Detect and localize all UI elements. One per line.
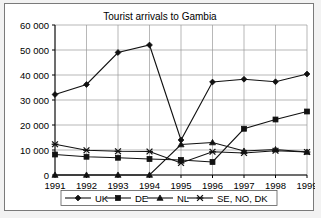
axes [52,25,307,178]
chart-frame: Tourist arrivals to Gambia 010 00020 000… [0,0,321,218]
y-axis-tick-label: 0 [44,170,49,181]
x-axis-tick-label: 1994 [139,180,160,191]
chart-card: Tourist arrivals to Gambia 010 00020 000… [4,3,314,211]
data-point-marker [305,109,310,114]
legend-label: SE, NO, DK [217,193,268,204]
gridlines [55,25,307,175]
x-axis-tick-label: 1992 [76,180,97,191]
chart-title: Tourist arrivals to Gambia [103,11,217,22]
x-axis-tick-label: 1999 [296,180,315,191]
data-point-marker [116,155,121,160]
data-point-marker [242,126,247,131]
data-point-marker [241,76,247,82]
x-axis-tick-label: 1998 [265,180,286,191]
y-axis-tick-label: 20 000 [20,120,49,131]
chart-title-text: Tourist arrivals to Gambia [103,11,217,22]
data-point-marker [210,79,216,85]
data-point-marker [52,92,58,98]
x-axis-tick-label: 1993 [107,180,128,191]
data-point-marker [273,117,278,122]
x-axis-tick-labels: 199119921993199419951996199719981999 [44,180,315,191]
data-point-marker [147,42,153,48]
data-point-marker [53,152,58,157]
data-point-marker [147,157,152,162]
x-axis-tick-label: 1996 [202,180,223,191]
x-axis-tick-label: 1995 [170,180,191,191]
x-axis-tick-label: 1997 [233,180,254,191]
y-axis-tick-label: 50 000 [20,45,49,56]
data-point-marker [210,160,215,165]
y-axis-tick-label: 30 000 [20,95,49,106]
legend-label: DE [135,193,148,204]
data-point-marker [84,154,89,159]
y-axis-tick-label: 10 000 [20,145,49,156]
y-axis-tick-label: 40 000 [20,70,49,81]
data-point-marker [273,79,279,85]
legend-marker [116,196,121,201]
x-axis-tick-label: 1991 [44,180,65,191]
y-axis-tick-label: 60 000 [20,20,49,31]
data-point-marker [304,71,310,77]
chart-legend: UKDENLSE, NO, DK [61,191,277,206]
tourist-arrivals-line-chart: Tourist arrivals to Gambia 010 00020 000… [5,4,315,212]
y-axis-tick-labels: 010 00020 00030 00040 00050 00060 000 [20,20,49,181]
